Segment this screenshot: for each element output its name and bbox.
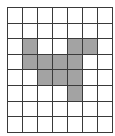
grid-cell-filled <box>23 39 38 55</box>
grid-cell-filled <box>53 55 68 71</box>
grid-cell-empty <box>8 86 23 102</box>
grid-cell-empty <box>38 102 53 118</box>
grid-cell-empty <box>8 8 23 24</box>
grid-cell-empty <box>23 8 38 24</box>
grid-cell-empty <box>8 70 23 86</box>
grid-cell-empty <box>98 8 113 24</box>
grid-cell-empty <box>98 86 113 102</box>
grid-cell-filled <box>23 55 38 71</box>
grid-cell-filled <box>68 39 83 55</box>
grid-cell-empty <box>38 24 53 40</box>
grid-cell-empty <box>38 86 53 102</box>
grid-cell-empty <box>83 70 98 86</box>
grid-cell-empty <box>53 117 68 133</box>
grid-cell-empty <box>38 117 53 133</box>
grid-cell-empty <box>23 102 38 118</box>
grid-cell-empty <box>83 8 98 24</box>
grid-cell-empty <box>98 70 113 86</box>
shaded-grid <box>7 7 113 133</box>
grid-cell-empty <box>83 86 98 102</box>
grid-cell-filled <box>53 70 68 86</box>
grid-cell-empty <box>83 102 98 118</box>
grid-cell-empty <box>8 102 23 118</box>
grid-cell-empty <box>98 24 113 40</box>
grid-cell-filled <box>68 55 83 71</box>
grid-cell-empty <box>23 86 38 102</box>
grid-cell-empty <box>68 117 83 133</box>
grid-cell-empty <box>98 102 113 118</box>
grid-cell-empty <box>53 102 68 118</box>
grid-cell-empty <box>38 8 53 24</box>
grid-cell-empty <box>53 24 68 40</box>
grid-cell-empty <box>23 70 38 86</box>
grid-cell-empty <box>8 117 23 133</box>
grid-cell-empty <box>83 117 98 133</box>
grid-cell-empty <box>68 24 83 40</box>
grid-cell-empty <box>98 55 113 71</box>
grid-cell-empty <box>98 117 113 133</box>
grid-cell-empty <box>53 39 68 55</box>
grid-cell-empty <box>8 55 23 71</box>
grid-cell-empty <box>8 24 23 40</box>
grid-cell-filled <box>83 39 98 55</box>
grid-cell-empty <box>98 39 113 55</box>
grid-cell-filled <box>38 70 53 86</box>
grid-cell-empty <box>53 8 68 24</box>
grid-cell-empty <box>8 39 23 55</box>
grid-cell-empty <box>83 24 98 40</box>
grid-cell-empty <box>53 86 68 102</box>
grid-cell-empty <box>38 39 53 55</box>
grid-cell-filled <box>38 55 53 71</box>
grid-cell-empty <box>23 117 38 133</box>
grid-cell-filled <box>68 70 83 86</box>
grid-cell-empty <box>23 24 38 40</box>
grid-cell-empty <box>68 102 83 118</box>
grid-cell-empty <box>83 55 98 71</box>
grid-cell-empty <box>68 8 83 24</box>
grid-cell-filled <box>68 86 83 102</box>
